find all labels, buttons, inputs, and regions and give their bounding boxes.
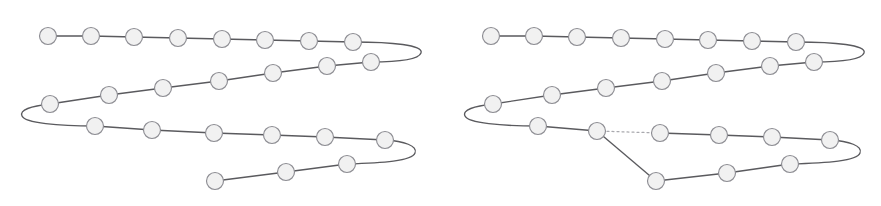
bead[interactable]	[652, 125, 669, 142]
bead[interactable]	[278, 164, 295, 181]
bead[interactable]	[598, 80, 615, 97]
bond-right-24-23	[727, 164, 790, 173]
bead[interactable]	[744, 33, 761, 50]
bead[interactable]	[569, 29, 586, 46]
bead[interactable]	[589, 123, 606, 140]
added-bond-right-17-22	[597, 131, 656, 181]
bead[interactable]	[301, 33, 318, 50]
bead[interactable]	[806, 54, 823, 71]
bead[interactable]	[544, 87, 561, 104]
bead[interactable]	[483, 28, 500, 45]
right-panel	[465, 28, 865, 190]
bead[interactable]	[206, 125, 223, 142]
bead[interactable]	[257, 32, 274, 49]
broken-bond-right-17-18	[597, 131, 660, 133]
bead[interactable]	[719, 165, 736, 182]
bead[interactable]	[83, 28, 100, 45]
bead[interactable]	[764, 129, 781, 146]
bead[interactable]	[211, 73, 228, 90]
bead[interactable]	[40, 28, 57, 45]
bead[interactable]	[264, 127, 281, 144]
bead[interactable]	[700, 32, 717, 49]
bond-right-23-22	[656, 173, 727, 181]
bead[interactable]	[339, 156, 356, 173]
bond-left-23-24	[215, 172, 286, 181]
bead[interactable]	[170, 30, 187, 47]
bead[interactable]	[613, 30, 630, 47]
bond-left-17-18	[152, 130, 214, 133]
bead[interactable]	[363, 54, 380, 71]
bead[interactable]	[126, 29, 143, 46]
bead[interactable]	[265, 65, 282, 82]
bond-left-22-23	[286, 164, 347, 172]
bead[interactable]	[822, 132, 839, 149]
bead[interactable]	[711, 127, 728, 144]
figure-container	[0, 0, 881, 206]
bead[interactable]	[319, 58, 336, 75]
bead[interactable]	[144, 122, 161, 139]
bead[interactable]	[87, 118, 104, 135]
right-panel-beads	[483, 28, 839, 190]
bead[interactable]	[155, 80, 172, 97]
bead[interactable]	[782, 156, 799, 173]
bead[interactable]	[377, 132, 394, 149]
left-panel-bonds	[22, 36, 422, 181]
bead[interactable]	[207, 173, 224, 190]
bead[interactable]	[708, 65, 725, 82]
bead[interactable]	[101, 87, 118, 104]
bead[interactable]	[788, 34, 805, 51]
bead[interactable]	[526, 28, 543, 45]
bead[interactable]	[648, 173, 665, 190]
bead[interactable]	[42, 96, 59, 113]
bead[interactable]	[762, 58, 779, 75]
left-panel	[22, 28, 422, 190]
bead[interactable]	[530, 118, 547, 135]
right-panel-bonds	[465, 36, 865, 181]
left-panel-beads	[40, 28, 394, 190]
bead[interactable]	[345, 34, 362, 51]
bead-chain-figure	[0, 0, 881, 206]
bead[interactable]	[214, 31, 231, 48]
bead[interactable]	[654, 73, 671, 90]
bead[interactable]	[485, 96, 502, 113]
bead[interactable]	[657, 31, 674, 48]
bead[interactable]	[317, 129, 334, 146]
